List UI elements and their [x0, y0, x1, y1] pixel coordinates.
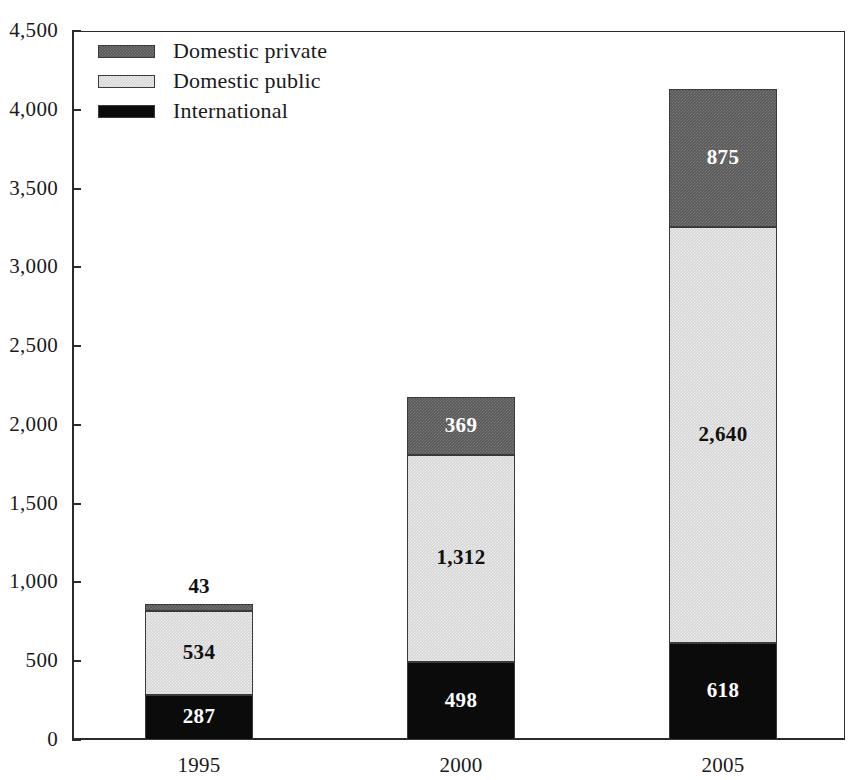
y-axis-tick-mark [72, 30, 81, 32]
y-axis-tick-mark [72, 739, 81, 741]
bar-segment-value-label: 43 [145, 574, 253, 599]
y-axis-tick-mark [72, 109, 81, 111]
bar-segment: 287 [145, 695, 253, 740]
y-axis-tick-mark [72, 660, 81, 662]
y-axis-tick-label: 2,000 [9, 411, 58, 437]
bar-segment: 534 [145, 611, 253, 695]
x-axis-category-label: 2005 [669, 753, 777, 778]
legend-item: Domestic public [98, 66, 327, 96]
bar-segment-value-label: 875 [670, 145, 776, 170]
legend-swatch [98, 105, 155, 118]
bar-segment-value-label: 534 [146, 640, 252, 665]
y-axis-tick-mark [72, 266, 81, 268]
bar-group: 6182,640875 [669, 89, 777, 740]
y-axis-tick-label: 1,500 [9, 490, 58, 516]
y-axis-tick-mark [72, 503, 81, 505]
legend-swatch [98, 45, 155, 58]
y-axis-tick-label: 3,500 [9, 175, 58, 201]
y-axis-tick-label: 0 [47, 726, 58, 752]
bar-group: 28753443 [145, 604, 253, 740]
bar-segment: 618 [669, 643, 777, 740]
bar-segment-value-label: 498 [408, 688, 514, 713]
bar-segment-value-label: 1,312 [408, 545, 514, 570]
y-axis-tick-label: 4,500 [9, 17, 58, 43]
bar-segment: 498 [407, 662, 515, 740]
bar-segment: 1,312 [407, 455, 515, 662]
legend-item-label: International [173, 99, 288, 123]
y-axis-tick-label: 2,500 [9, 332, 58, 358]
bar-segment-value-label: 2,640 [670, 422, 776, 447]
legend-item: International [98, 96, 327, 126]
x-axis-category-label: 1995 [145, 753, 253, 778]
y-axis-tick-mark [72, 188, 81, 190]
bar-segment [145, 604, 253, 611]
legend-item-label: Domestic public [173, 69, 321, 93]
stacked-bar-chart: 05001,0001,5002,0002,5003,0003,5004,0004… [0, 0, 858, 780]
bar-segment-value-label: 369 [408, 413, 514, 438]
y-axis-tick-label: 4,000 [9, 96, 58, 122]
legend-item-label: Domestic private [173, 39, 327, 63]
bar-segment: 2,640 [669, 227, 777, 643]
bar-segment: 875 [669, 89, 777, 227]
y-axis-tick-mark [72, 424, 81, 426]
legend-item: Domestic private [98, 36, 327, 66]
legend: Domestic privateDomestic publicInternati… [98, 36, 327, 126]
bar-segment: 369 [407, 397, 515, 455]
x-axis-category-label: 2000 [407, 753, 515, 778]
legend-swatch [98, 75, 155, 88]
y-axis-tick-label: 500 [26, 647, 58, 673]
y-axis-tick-mark [72, 581, 81, 583]
bar-segment-value-label: 287 [146, 704, 252, 729]
bar-segment-value-label: 618 [670, 678, 776, 703]
y-axis-tick-mark [72, 345, 81, 347]
bar-group: 4981,312369 [407, 397, 515, 740]
y-axis-tick-label: 3,000 [9, 253, 58, 279]
y-axis-tick-label: 1,000 [9, 568, 58, 594]
